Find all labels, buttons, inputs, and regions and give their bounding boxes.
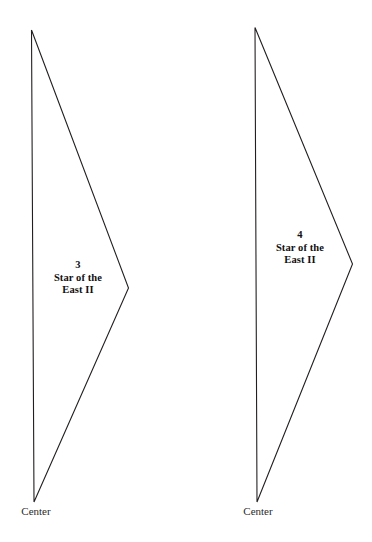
lot-name-line-2: East II (30, 284, 126, 297)
lot-name-line-1: Star of the (252, 242, 348, 255)
lot-label-4: 4 Star of the East II (252, 229, 348, 267)
lot-number: 4 (252, 229, 348, 242)
center-label-lot-3: Center (5, 505, 67, 517)
lot-name-line-1: Star of the (30, 272, 126, 285)
center-label-lot-4: Center (227, 505, 289, 517)
lot-name-line-2: East II (252, 254, 348, 267)
lot-label-3: 3 Star of the East II (30, 259, 126, 297)
lot-number: 3 (30, 259, 126, 272)
